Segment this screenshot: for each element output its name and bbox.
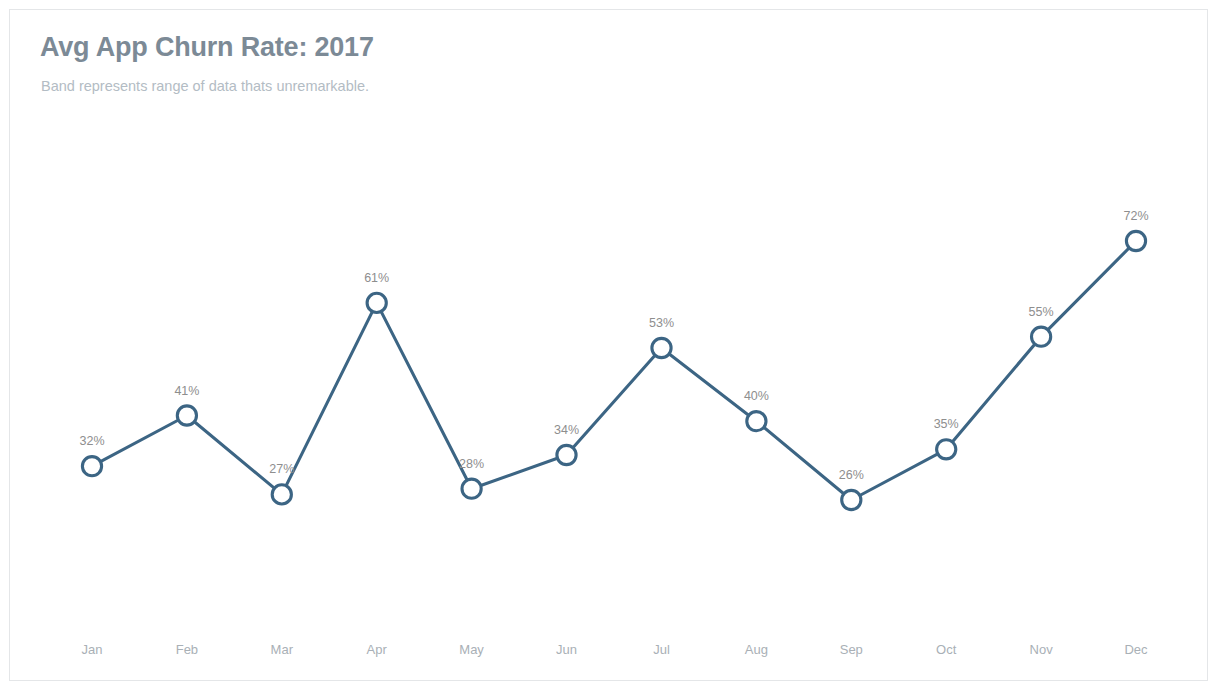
data-point-label: 27% xyxy=(269,462,294,476)
series-line-group xyxy=(92,241,1136,500)
series-line xyxy=(92,241,1136,500)
data-point-label: 32% xyxy=(79,434,104,448)
data-point-label: 53% xyxy=(649,316,674,330)
data-point-marker[interactable] xyxy=(557,445,576,464)
x-axis-tick-label-aug: Aug xyxy=(745,642,768,657)
line-chart: 32%41%27%61%28%34%53%40%26%35%55%72% Jan… xyxy=(10,10,1209,682)
data-point-label: 26% xyxy=(839,468,864,482)
x-axis-tick-label-may: May xyxy=(459,642,484,657)
data-point-label: 55% xyxy=(1029,305,1054,319)
x-axis-tick-label-apr: Apr xyxy=(367,642,388,657)
data-point-label: 35% xyxy=(934,417,959,431)
x-axis-tick-label-feb: Feb xyxy=(176,642,198,657)
data-point-marker[interactable] xyxy=(1126,231,1145,250)
data-point-label: 40% xyxy=(744,389,769,403)
data-point-marker[interactable] xyxy=(937,440,956,459)
x-axis-tick-label-oct: Oct xyxy=(936,642,957,657)
x-axis-tick-label-nov: Nov xyxy=(1030,642,1054,657)
data-point-markers xyxy=(82,231,1145,509)
x-axis-tick-label-mar: Mar xyxy=(271,642,294,657)
x-axis-tick-label-jan: Jan xyxy=(82,642,103,657)
x-axis-tick-label-sep: Sep xyxy=(840,642,863,657)
x-axis-tick-label-jun: Jun xyxy=(556,642,577,657)
data-point-marker[interactable] xyxy=(1032,327,1051,346)
data-point-label: 41% xyxy=(174,384,199,398)
data-point-marker[interactable] xyxy=(842,490,861,509)
chart-card: Avg App Churn Rate: 2017 Band represents… xyxy=(9,9,1208,681)
data-point-labels: 32%41%27%61%28%34%53%40%26%35%55%72% xyxy=(79,209,1148,482)
data-point-marker[interactable] xyxy=(652,338,671,357)
x-axis-labels: JanFebMarAprMayJunJulAugSepOctNovDec xyxy=(82,642,1149,657)
x-axis-tick-label-jul: Jul xyxy=(653,642,670,657)
data-point-marker[interactable] xyxy=(82,457,101,476)
data-point-marker[interactable] xyxy=(462,479,481,498)
data-point-marker[interactable] xyxy=(177,406,196,425)
data-point-label: 34% xyxy=(554,423,579,437)
data-point-marker[interactable] xyxy=(367,293,386,312)
chart-page: Avg App Churn Rate: 2017 Band represents… xyxy=(0,0,1219,690)
data-point-label: 61% xyxy=(364,271,389,285)
data-point-marker[interactable] xyxy=(272,485,291,504)
data-point-label: 72% xyxy=(1123,209,1148,223)
data-point-marker[interactable] xyxy=(747,412,766,431)
data-point-label: 28% xyxy=(459,457,484,471)
x-axis-tick-label-dec: Dec xyxy=(1124,642,1148,657)
